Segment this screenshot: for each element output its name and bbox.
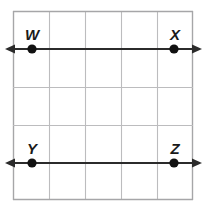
grid-vertical-lines	[14, 11, 193, 200]
line-yz-arrow-right-icon	[192, 159, 202, 168]
line-wx-arrow-right-icon	[192, 45, 202, 54]
geometry-figure: W X Y Z	[0, 0, 207, 213]
line-yz-arrow-left-icon	[5, 159, 15, 168]
point-label-z: Z	[169, 140, 180, 157]
point-label-y: Y	[27, 140, 39, 157]
points-group	[27, 44, 178, 167]
point-w-dot	[27, 44, 36, 53]
geometry-canvas: W X Y Z	[0, 0, 207, 213]
point-y-dot	[27, 158, 36, 167]
point-label-x: X	[169, 26, 181, 43]
grid-horizontal-lines	[13, 12, 193, 200]
point-z-dot	[169, 158, 178, 167]
point-x-dot	[169, 44, 178, 53]
point-label-w: W	[25, 26, 41, 43]
line-wx-arrow-left-icon	[5, 45, 15, 54]
